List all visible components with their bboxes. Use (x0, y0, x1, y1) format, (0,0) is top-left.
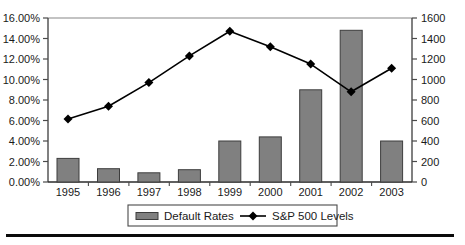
x-tick-label: 1999 (218, 186, 242, 198)
x-tick-label: 1995 (56, 186, 80, 198)
right-axis-labels: 1600 1400 1200 1000 800 600 400 200 0 (421, 12, 445, 188)
right-tick-label: 1200 (421, 53, 445, 65)
right-tick-label: 0 (421, 176, 427, 188)
right-axis-ticks (412, 18, 417, 182)
x-tick-label: 2002 (339, 186, 363, 198)
left-tick-label: 6.00% (9, 115, 40, 127)
left-tick-label: 16.00% (3, 12, 41, 24)
right-tick-label: 200 (421, 156, 439, 168)
x-axis-labels: 1995 1996 1997 1998 1999 2000 2001 2002 … (56, 186, 404, 198)
right-tick-label: 1400 (421, 33, 445, 45)
right-tick-label: 1000 (421, 74, 445, 86)
left-tick-label: 2.00% (9, 156, 40, 168)
legend-label-sp500: S&P 500 Levels (272, 210, 354, 222)
bar-1996 (98, 169, 120, 182)
right-tick-label: 600 (421, 115, 439, 127)
bar-2003 (381, 141, 403, 182)
left-tick-label: 4.00% (9, 135, 40, 147)
bottom-divider-rule (6, 234, 454, 237)
left-axis-ticks (43, 18, 48, 182)
bar-2000 (259, 137, 281, 182)
chart-legend: Default Rates S&P 500 Levels (128, 205, 354, 226)
dual-axis-chart: 16.00% 14.00% 12.00% 10.00% 8.00% 6.00% … (0, 0, 465, 245)
right-tick-label: 800 (421, 94, 439, 106)
bar-1999 (219, 141, 241, 182)
left-tick-label: 10.00% (3, 74, 41, 86)
bar-1997 (138, 173, 160, 182)
left-tick-label: 12.00% (3, 53, 41, 65)
left-axis-labels: 16.00% 14.00% 12.00% 10.00% 8.00% 6.00% … (3, 12, 41, 188)
bar-1998 (178, 170, 200, 182)
right-tick-label: 1600 (421, 12, 445, 24)
right-tick-label: 400 (421, 135, 439, 147)
legend-label-default-rates: Default Rates (164, 210, 234, 222)
left-tick-label: 0.00% (9, 176, 40, 188)
x-tick-label: 2003 (379, 186, 403, 198)
left-tick-label: 8.00% (9, 94, 40, 106)
bar-2001 (300, 90, 322, 182)
x-tick-label: 2001 (298, 186, 322, 198)
chart-figure: 16.00% 14.00% 12.00% 10.00% 8.00% 6.00% … (0, 0, 465, 245)
x-tick-label: 1996 (96, 186, 120, 198)
left-tick-label: 14.00% (3, 33, 41, 45)
bar-2002 (340, 30, 362, 182)
bar-1995 (57, 158, 79, 182)
x-tick-label: 1998 (177, 186, 201, 198)
x-tick-label: 1997 (137, 186, 161, 198)
legend-swatch-bar (136, 213, 158, 220)
x-tick-label: 2000 (258, 186, 282, 198)
